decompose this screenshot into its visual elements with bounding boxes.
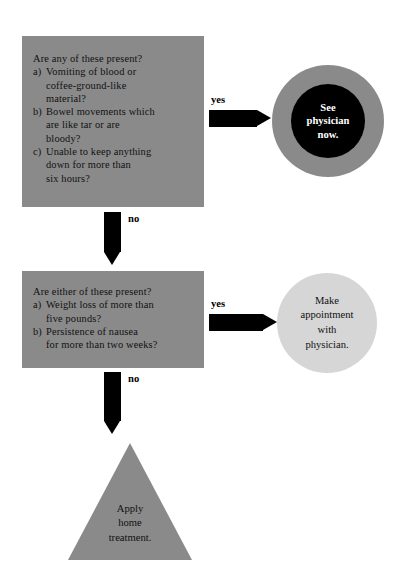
- decision-box-1-text: Are any of these present? a) Vomiting of…: [33, 52, 155, 185]
- edge-label-no-2: no: [128, 373, 139, 384]
- option-b-lines: Bowel movements which are like tar or ar…: [46, 105, 155, 145]
- option-b-marker: b): [33, 105, 46, 145]
- arrow-yes-1-head: [257, 110, 271, 126]
- option-c-line-3: six hours?: [46, 172, 155, 185]
- option-a-line-1: Weight loss of more than: [46, 298, 158, 311]
- option-b-line-1: Bowel movements which: [46, 105, 155, 118]
- option-a-marker: a): [33, 298, 46, 325]
- option-c-lines: Unable to keep anything down for more th…: [46, 145, 155, 185]
- outcome-3-line-2: home: [68, 516, 192, 530]
- outcome-circle-1-outer: See physician now.: [272, 65, 384, 177]
- outcome-3-line-3: treatment.: [68, 531, 192, 545]
- outcome-1-line-2: physician: [307, 114, 350, 127]
- decision-1-heading: Are any of these present?: [33, 52, 155, 65]
- arrow-yes-2: [209, 314, 277, 331]
- option-b-line-1: Persistence of nausea: [46, 325, 158, 338]
- decision-1-option-c: c) Unable to keep anything down for more…: [33, 145, 155, 185]
- arrow-no-1-shaft: [104, 212, 121, 252]
- arrow-no-1: [104, 212, 121, 265]
- decision-2-heading: Are either of these present?: [33, 285, 158, 298]
- outcome-1-line-1: See: [307, 101, 350, 114]
- arrow-yes-2-head: [263, 314, 277, 330]
- outcome-2-line-3: with: [301, 323, 354, 338]
- outcome-triangle-3: Apply home treatment.: [68, 443, 192, 560]
- arrow-no-2-shaft: [104, 372, 121, 421]
- arrow-no-2-head: [104, 421, 120, 434]
- outcome-2-line-4: physician.: [301, 338, 354, 353]
- option-a-line-2: coffee-ground-like: [46, 79, 155, 92]
- decision-1-option-a: a) Vomiting of blood or coffee-ground-li…: [33, 65, 155, 105]
- arrow-no-2: [104, 372, 121, 434]
- outcome-circle-2-text: Make appointment with physician.: [301, 294, 354, 352]
- option-b-line-2: are like tar or are: [46, 118, 155, 131]
- edge-label-no-1: no: [128, 213, 139, 224]
- option-b-marker: b): [33, 325, 46, 352]
- decision-box-2: Are either of these present? a) Weight l…: [22, 271, 204, 368]
- edge-label-yes-1: yes: [211, 94, 225, 105]
- flowchart-canvas: Are any of these present? a) Vomiting of…: [0, 0, 399, 576]
- arrow-yes-1: [209, 110, 271, 127]
- outcome-1-line-3: now.: [307, 128, 350, 141]
- option-b-lines: Persistence of nausea for more than two …: [46, 325, 158, 352]
- option-c-marker: c): [33, 145, 46, 185]
- outcome-circle-1-inner: See physician now.: [291, 84, 365, 158]
- decision-1-option-b: b) Bowel movements which are like tar or…: [33, 105, 155, 145]
- outcome-2-line-1: Make: [301, 294, 354, 309]
- decision-box-2-text: Are either of these present? a) Weight l…: [33, 285, 158, 351]
- edge-label-yes-2: yes: [211, 298, 225, 309]
- option-b-line-2: for more than two weeks?: [46, 338, 158, 351]
- option-a-line-2: five pounds?: [46, 312, 158, 325]
- option-a-lines: Vomiting of blood or coffee-ground-like …: [46, 65, 155, 105]
- option-b-line-3: bloody?: [46, 132, 155, 145]
- outcome-2-line-2: appointment: [301, 308, 354, 323]
- option-c-line-1: Unable to keep anything: [46, 145, 155, 158]
- option-c-line-2: down for more than: [46, 158, 155, 171]
- option-a-line-3: material?: [46, 92, 155, 105]
- decision-2-option-a: a) Weight loss of more than five pounds?: [33, 298, 158, 325]
- decision-2-option-b: b) Persistence of nausea for more than t…: [33, 325, 158, 352]
- outcome-3-line-1: Apply: [68, 502, 192, 516]
- arrow-yes-1-shaft: [209, 110, 257, 127]
- outcome-triangle-3-text: Apply home treatment.: [68, 502, 192, 545]
- arrow-no-1-head: [104, 252, 120, 265]
- option-a-lines: Weight loss of more than five pounds?: [46, 298, 158, 325]
- option-a-line-1: Vomiting of blood or: [46, 65, 155, 78]
- arrow-yes-2-shaft: [209, 314, 263, 331]
- decision-box-1: Are any of these present? a) Vomiting of…: [22, 36, 204, 207]
- outcome-circle-2: Make appointment with physician.: [277, 273, 377, 373]
- outcome-circle-1-text: See physician now.: [307, 101, 350, 141]
- option-a-marker: a): [33, 65, 46, 105]
